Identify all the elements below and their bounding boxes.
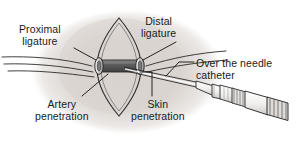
label-skin-penetration: Skin penetration [131, 99, 185, 122]
label-over-the-needle-catheter-line1: Over the needle [196, 58, 272, 70]
label-over-the-needle-catheter: Over the needle catheter [196, 58, 272, 81]
label-artery-penetration-line2: penetration [35, 111, 89, 123]
catheter-barrel [245, 91, 268, 115]
label-proximal-ligature-line2: ligature [19, 36, 61, 48]
catheter-end-cap [267, 97, 288, 121]
label-distal-ligature-line1: Distal [141, 16, 176, 28]
catheter-luer-grip [232, 88, 246, 107]
label-proximal-ligature: Proximal ligature [19, 24, 61, 47]
catheter-collar [220, 85, 233, 103]
label-artery-penetration: Artery penetration [35, 99, 89, 122]
label-distal-ligature: Distal ligature [141, 16, 176, 39]
label-skin-penetration-line2: penetration [131, 111, 185, 123]
label-over-the-needle-catheter-line2: catheter [196, 70, 272, 82]
label-distal-ligature-line2: ligature [141, 28, 176, 40]
figure-arterial-cannulation: Proximal ligature Distal ligature Over t… [0, 0, 296, 141]
label-skin-penetration-line1: Skin [131, 99, 185, 111]
label-artery-penetration-line1: Artery [35, 99, 89, 111]
label-proximal-ligature-line1: Proximal [19, 24, 61, 36]
